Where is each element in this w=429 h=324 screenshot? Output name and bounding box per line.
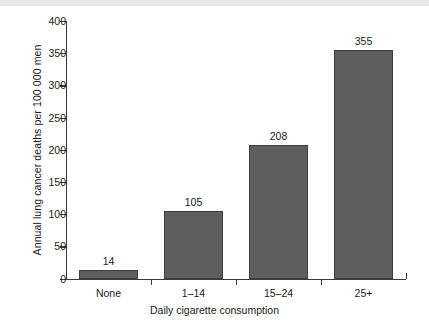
y-axis-line bbox=[66, 21, 67, 280]
bar-value-label: 208 bbox=[270, 130, 288, 142]
x-axis-category-label: 25+ bbox=[355, 287, 373, 299]
x-axis-category-label: 15–24 bbox=[264, 287, 293, 299]
x-axis-title: Daily cigarette consumption bbox=[0, 304, 429, 316]
x-axis-end-cap bbox=[66, 273, 67, 279]
bar-value-label: 105 bbox=[185, 196, 203, 208]
y-axis-tick-label: 300 bbox=[22, 79, 66, 91]
bar bbox=[334, 50, 394, 279]
bar bbox=[249, 145, 309, 279]
x-axis-category-label: 1–14 bbox=[182, 287, 205, 299]
bar-value-label: 14 bbox=[103, 255, 115, 267]
scan-artifact-band bbox=[0, 0, 429, 6]
bar-value-label: 355 bbox=[355, 35, 373, 47]
y-axis-tick-label: 200 bbox=[22, 144, 66, 156]
x-axis-tick-mark bbox=[321, 279, 322, 285]
y-axis-tick-label: 50 bbox=[22, 240, 66, 252]
y-axis-tick-label: 400 bbox=[22, 15, 66, 27]
y-axis-tick-label: 350 bbox=[22, 47, 66, 59]
y-axis-tick-label: 0 bbox=[22, 273, 66, 285]
x-axis-category-label: None bbox=[96, 287, 121, 299]
x-axis-tick-mark bbox=[236, 279, 237, 285]
y-axis-tick-label: 150 bbox=[22, 176, 66, 188]
bar bbox=[79, 270, 139, 279]
x-axis-tick-mark bbox=[151, 279, 152, 285]
y-axis-tick-label: 250 bbox=[22, 112, 66, 124]
x-axis-end-cap bbox=[406, 273, 407, 279]
y-axis-tick-label: 100 bbox=[22, 208, 66, 220]
bar-chart: Annual lung cancer deaths per 100 000 me… bbox=[0, 0, 429, 324]
bar bbox=[164, 211, 224, 279]
